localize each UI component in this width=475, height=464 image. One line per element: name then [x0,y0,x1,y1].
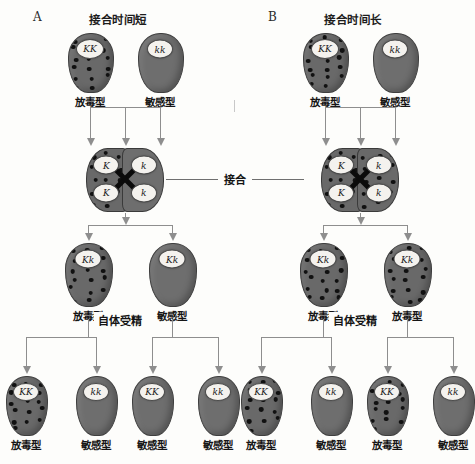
paramecium-cell-killer: KK [241,376,281,434]
kappa-particle [374,401,379,405]
kappa-particle [362,205,367,209]
kappa-particle [276,391,281,395]
kappa-particle [339,268,344,272]
kappa-particle [400,406,405,410]
kappa-particle [329,178,334,182]
micronucleus-right-bottom: k [366,183,392,202]
macronucleus: kk [382,40,408,59]
kappa-particle [320,279,325,283]
kappa-particle [105,204,110,208]
kappa-particle [103,151,108,155]
cell-phenotype-label: 放毒型 [11,437,41,452]
offspring-arrow-1-line [331,337,332,367]
parents-to-pair-arrow-line [360,107,361,139]
micronucleus-left-bottom: K [328,183,354,202]
macronucleus: Kk [75,250,102,269]
kappa-particle [72,300,77,304]
autogamy-bracket-left [26,337,96,338]
kappa-particle [94,178,99,182]
kappa-particle [305,287,310,291]
kappa-particle [325,67,330,71]
pair-to-exconjugants-arrowhead [357,217,365,225]
kappa-particle [74,58,79,62]
macronucleus: kk [440,383,466,401]
macronucleus: kk [83,383,109,401]
kappa-particle [100,246,105,250]
offspring-arrow-2-line [387,337,388,367]
kappa-particle [71,45,76,49]
kappa-particle [89,277,94,281]
pair-to-exconjugants-arrowhead [122,217,130,225]
kappa-particle [90,86,95,90]
kappa-particle [340,256,345,260]
offspring-arrow-2-line [152,337,153,367]
micronucleus-right-bottom: k [131,183,157,202]
kappa-particle [73,278,78,282]
parents-to-pair-arrow-arrowhead [357,138,365,146]
kappa-particle [377,176,382,180]
kappa-particle [339,37,344,41]
offspring-arrow-1-arrowhead [328,366,336,374]
macronucleus: KK [13,383,39,401]
kappa-particle [103,275,108,279]
parents-to-pair-arrow-arrowhead [122,138,130,146]
cell-phenotype-label: 敏感型 [203,437,233,452]
kappa-particle [74,86,79,90]
kappa-particle [335,279,340,283]
kappa-particle [13,426,18,430]
autogamy-stem-right [172,319,173,337]
kappa-particle [36,400,41,404]
panel-title: 接合时间短 [89,11,147,27]
panel-title: 接合时间长 [324,11,382,27]
cell-phenotype-label: 敏感型 [316,437,346,452]
macronucleus: kk [318,383,344,401]
conjugation-connector-left [166,179,218,180]
kappa-particle [89,290,94,294]
paramecium-cell-killer: KK [367,376,407,434]
kappa-particle [400,383,405,387]
paramecium-cell-killer: Kk [384,243,430,305]
offspring-arrow-3-line [218,337,219,367]
cell-phenotype-label: 敏感型 [81,437,111,452]
paramecium-cell-killer: KK [68,33,112,91]
kappa-particle [104,37,109,41]
macronucleus: KK [248,383,274,401]
kappa-particle [101,256,106,260]
macronucleus: KK [374,383,400,401]
exconjugant-split-line [88,225,172,226]
conjugation-label: 接合 [220,171,250,187]
offspring-arrow-0-arrowhead [258,366,266,374]
kappa-particle [72,65,77,69]
micronucleus-right-top: k [131,156,157,175]
paramecium-cell-sensitive: kk [138,33,182,91]
kappa-particle [320,296,325,300]
kappa-particle [275,415,280,419]
autogamy-bracket-left [261,337,331,338]
kappa-particle [391,289,396,293]
kappa-particle [326,203,331,207]
autogamy-bracket-right [387,337,453,338]
paramecium-cell-killer: KK [303,33,347,91]
kappa-particle [335,289,340,293]
kappa-particle [391,180,396,184]
kappa-particle [40,406,45,410]
kappa-particle [389,295,394,299]
kappa-particle [404,269,409,273]
kappa-particle [306,59,311,63]
kappa-particle [352,155,357,159]
kappa-particle [308,68,313,72]
kappa-particle [339,74,344,78]
parent-right-to-pair-arrowhead [157,138,165,146]
offspring-arrow-1-arrowhead [93,366,101,374]
parent-right-to-pair-arrowhead [392,138,400,146]
cell-phenotype-label: 放毒型 [246,437,276,452]
kappa-particle [87,298,92,302]
kappa-particle [384,417,389,421]
kappa-particle [259,407,264,411]
kappa-particle [13,407,18,411]
cell-phenotype-label: 敏感型 [137,437,167,452]
kappa-particle [273,378,278,382]
offspring-arrow-1-line [96,337,97,367]
micronucleus-right-top: k [366,156,392,175]
kappa-particle [338,151,343,155]
